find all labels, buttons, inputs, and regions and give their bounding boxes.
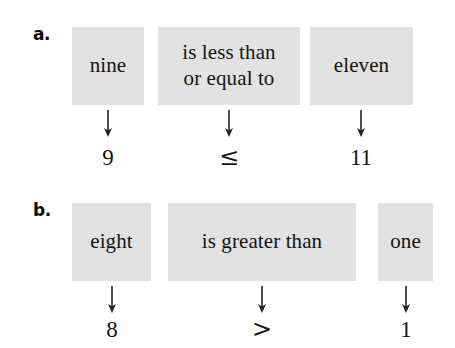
down-arrow-icon <box>354 110 368 138</box>
phrase-line: is greater than <box>172 229 352 255</box>
down-arrow-icon <box>105 286 119 314</box>
phrase-text-b-1: eight <box>76 229 147 255</box>
down-arrow-icon <box>101 110 115 138</box>
phrase-text-a-3: eleven <box>314 53 409 79</box>
symbol-b-3: 1 <box>400 318 412 341</box>
phrase-box-a-1: nine <box>72 27 144 105</box>
phrase-text-a-1: nine <box>76 53 140 79</box>
symbol-a-2: ≤ <box>219 145 239 169</box>
symbol-b-1: 8 <box>106 318 118 341</box>
phrase-box-b-2: is greater than <box>168 203 356 281</box>
phrase-line: is less than <box>162 40 296 66</box>
row-label-b: b. <box>33 202 51 219</box>
row-label-a: a. <box>33 26 50 43</box>
phrase-text-a-2: is less than or equal to <box>162 40 296 91</box>
symbol-a-3: 11 <box>350 146 372 169</box>
down-arrow-icon <box>222 110 236 138</box>
phrase-line: eight <box>76 229 147 255</box>
phrase-line: eleven <box>314 53 409 79</box>
symbol-a-1: 9 <box>102 146 114 169</box>
down-arrow-icon <box>255 286 269 314</box>
phrase-box-a-2: is less than or equal to <box>158 27 300 105</box>
phrase-box-b-3: one <box>378 203 433 281</box>
phrase-box-b-1: eight <box>72 203 151 281</box>
phrase-line: one <box>382 229 429 255</box>
phrase-text-b-2: is greater than <box>172 229 352 255</box>
phrase-line: nine <box>76 53 140 79</box>
phrase-text-b-3: one <box>382 229 429 255</box>
down-arrow-icon <box>399 286 413 314</box>
inequality-translation-figure: a. nine 9 is less than or equal to ≤ ele… <box>0 0 455 348</box>
phrase-line: or equal to <box>162 66 296 92</box>
phrase-box-a-3: eleven <box>310 27 413 105</box>
symbol-b-2: > <box>252 317 272 341</box>
